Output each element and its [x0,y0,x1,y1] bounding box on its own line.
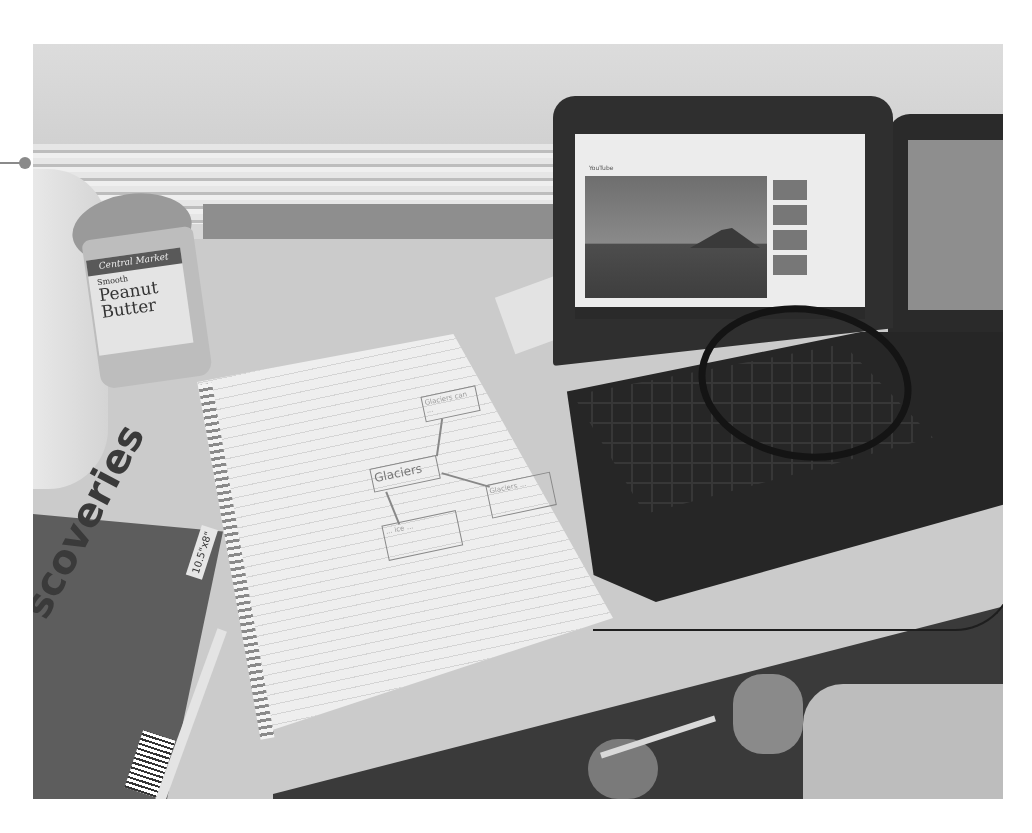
connector [441,472,489,487]
video-thumbnail [773,230,807,250]
concept-box-bottom: ... ice ... [381,510,463,561]
video-thumbnail [773,255,807,275]
connector [386,492,401,525]
video-thumbnail [773,180,807,200]
headphone-cable [593,539,1003,631]
video-player [585,176,767,298]
jar-product-text: Smooth Peanut Butter [97,271,162,321]
desk-photo: Central Market Smooth Peanut Butter scov… [33,44,1003,799]
callout-dot-marker [19,157,31,169]
hand [733,674,803,754]
sweater-sleeve [803,684,1003,799]
connector [436,418,443,456]
second-laptop-screen [908,140,1003,310]
laptop-screen: YouTube [575,134,865,319]
site-logo: YouTube [589,164,613,171]
concept-box-right: Glaciers ... [485,472,557,519]
suggested-videos [773,180,807,310]
peanut-butter-jar: Central Market Smooth Peanut Butter [68,183,234,401]
mountain [690,228,760,248]
concept-center: Glaciers [369,455,441,493]
second-laptop [888,114,1003,354]
video-thumbnail [773,205,807,225]
jar-label: Central Market Smooth Peanut Butter [86,248,193,356]
